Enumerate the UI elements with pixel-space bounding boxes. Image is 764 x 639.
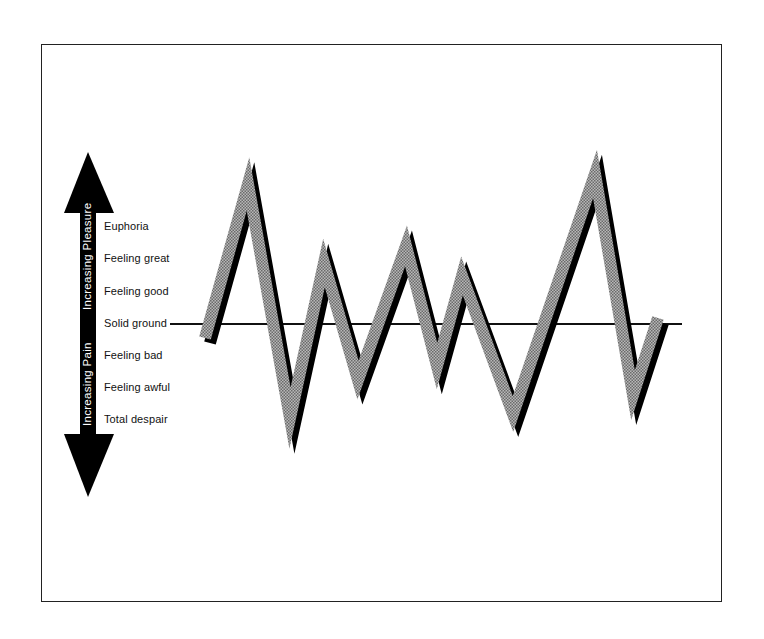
arrow-head-down-icon [64, 434, 114, 497]
scale-label-feeling-good: Feeling good [104, 284, 169, 298]
increasing-pleasure-label: Increasing Pleasure [81, 203, 93, 310]
scale-label-feeling-great: Feeling great [104, 251, 170, 265]
increasing-pain-label: Increasing Pain [81, 342, 93, 426]
scale-label-euphoria: Euphoria [104, 219, 149, 233]
scale-label-feeling-bad: Feeling bad [104, 348, 163, 362]
scale-label-total-despair: Total despair [104, 412, 168, 426]
scale-label-feeling-awful: Feeling awful [104, 380, 170, 394]
scale-label-solid-ground: Solid ground [104, 316, 167, 330]
